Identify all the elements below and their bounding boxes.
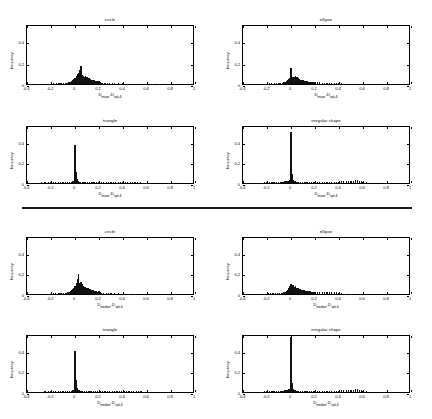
histogram-bars [243, 238, 409, 294]
x-tick-mark [387, 181, 388, 183]
x-tick-mark-top [387, 26, 388, 28]
x-tick-mark [267, 181, 268, 183]
x-tick-mark [387, 82, 388, 84]
histogram-bar [102, 391, 103, 392]
histogram-bar [58, 182, 59, 183]
x-tick-label: 0.2 [95, 86, 101, 91]
histogram-bar [336, 292, 337, 294]
histogram-bar [161, 183, 162, 184]
x-tick-label: 0.6 [143, 296, 149, 301]
histogram-bar [343, 84, 344, 85]
histogram-bar [132, 182, 133, 183]
x-tick-mark [171, 82, 172, 84]
histogram-bar [324, 182, 325, 183]
histogram-bar [350, 181, 351, 183]
histogram-bar [112, 391, 113, 392]
histogram-bar [331, 83, 332, 84]
histogram-bar [322, 182, 323, 183]
y-tick-label: 0.2 [230, 61, 240, 66]
x-tick-mark [195, 292, 196, 294]
x-tick-mark [27, 292, 28, 294]
histogram-bar [182, 84, 183, 85]
histogram-bar [372, 294, 373, 295]
histogram-bar [319, 82, 320, 84]
histogram-bar [322, 83, 323, 84]
x-tick-mark-top [315, 127, 316, 129]
x-tick-mark [147, 390, 148, 392]
x-tick-mark [387, 390, 388, 392]
histogram-bar [326, 391, 327, 392]
histogram-bar [110, 182, 111, 183]
y-tick-mark [243, 43, 245, 44]
histogram-bar [142, 294, 143, 295]
y-tick-label: 0.4 [14, 140, 24, 145]
histogram-bar [326, 292, 327, 294]
x-tick-mark [123, 181, 124, 183]
x-tick-mark-top [411, 26, 412, 28]
histogram-bar [116, 391, 117, 392]
histogram-bar [341, 181, 342, 183]
x-tick-label: 1 [409, 185, 411, 190]
x-tick-mark [99, 82, 100, 84]
x-tick-mark-top [171, 238, 172, 240]
histogram-bar [38, 294, 39, 295]
y-tick-label: 0.2 [14, 161, 24, 166]
panel-bottom-irregular: irregular shape-0.4-0.200.20.40.60.8100.… [216, 313, 432, 413]
histogram-bar [346, 390, 347, 392]
histogram-bar [44, 391, 45, 392]
histogram-bar [125, 182, 126, 183]
plot-area: ellipse [242, 237, 410, 295]
histogram-bar [257, 84, 258, 85]
histogram-bar [115, 182, 116, 183]
y-tick-label: 0.4 [230, 251, 240, 256]
histogram-bar [118, 83, 119, 84]
x-tick-mark-top [411, 238, 412, 240]
x-tick-label: 0 [289, 394, 291, 399]
panel-title: triangle [27, 327, 193, 332]
x-tick-mark [291, 181, 292, 183]
histogram-bar [108, 293, 109, 294]
x-tick-label: 0 [73, 86, 75, 91]
x-tick-mark [291, 390, 292, 392]
x-tick-mark-top [99, 238, 100, 240]
y-tick-label: 0 [230, 83, 240, 88]
histogram-bar [175, 392, 176, 393]
y-tick-mark-right [407, 275, 409, 276]
histogram-bar [133, 391, 134, 392]
histogram-bar [350, 294, 351, 295]
y-tick-mark [243, 65, 245, 66]
y-tick-label: 0 [230, 182, 240, 187]
x-label-sub1: median [100, 305, 110, 309]
histogram-bar [106, 293, 107, 294]
histogram-bar [119, 391, 120, 392]
y-tick-mark [243, 164, 245, 165]
plot-area: circle [26, 237, 194, 295]
y-tick-label: 0 [230, 293, 240, 298]
y-tick-label: 0.4 [14, 349, 24, 354]
x-tick-mark [99, 292, 100, 294]
x-tick-label: -0.2 [263, 185, 270, 190]
histogram-bar [140, 391, 141, 392]
histogram-bar [334, 292, 335, 294]
x-tick-label: 0.6 [359, 86, 365, 91]
panel-title: circle [27, 229, 193, 234]
histogram-bar [264, 391, 265, 392]
histogram-bar [371, 392, 372, 393]
histogram-bar [276, 83, 277, 84]
x-label-sub2: spk-δ [114, 95, 122, 99]
histogram-bar [253, 392, 254, 393]
y-tick-mark-right [191, 164, 193, 165]
histogram-bar [319, 182, 320, 183]
y-tick-mark-right [407, 43, 409, 44]
histogram-bar [178, 294, 179, 295]
x-tick-mark-top [315, 26, 316, 28]
histogram-bars [243, 127, 409, 183]
histogram-bar [334, 83, 335, 84]
histogram-bar [48, 391, 49, 392]
panel-top-triangle: triangle-0.4-0.200.20.40.60.8100.20.4fre… [0, 104, 216, 204]
x-tick-mark-top [387, 127, 388, 129]
x-tick-label: 0.2 [311, 86, 317, 91]
histogram-bar [253, 183, 254, 184]
x-tick-label: 0.8 [167, 86, 173, 91]
x-tick-mark-top [363, 336, 364, 338]
